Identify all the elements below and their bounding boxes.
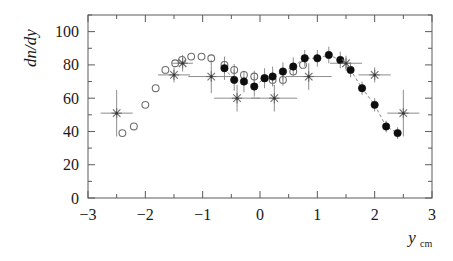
filled-circle-marker	[301, 55, 308, 62]
x-tick-label: −1	[194, 206, 211, 223]
star-core	[210, 75, 213, 78]
x-tick-label: 3	[428, 206, 436, 223]
star-marker	[232, 93, 242, 103]
x-tick-label: 2	[371, 206, 379, 223]
x-axis-label-main: y	[406, 228, 416, 247]
x-tick-label: 0	[256, 206, 264, 223]
star-marker	[398, 108, 408, 118]
y-axis-label-group: dn/dy	[21, 29, 40, 67]
filled-circle-marker	[261, 75, 268, 82]
x-tick-label: 1	[313, 206, 321, 223]
star-marker	[177, 58, 187, 68]
star-core	[181, 62, 184, 65]
star-marker	[269, 93, 279, 103]
filled-circle-marker	[371, 101, 378, 108]
x-axis-label-subscript: cm	[420, 238, 432, 249]
star-marker	[341, 58, 351, 68]
y-tick-label: 40	[63, 123, 79, 140]
star-core	[115, 112, 118, 115]
star-core	[307, 75, 310, 78]
filled-circle-marker	[314, 55, 321, 62]
star-core	[236, 97, 239, 100]
filled-circle-marker	[358, 85, 365, 92]
star-core	[373, 73, 376, 76]
star-marker	[304, 71, 314, 81]
filled-circle-marker	[251, 83, 258, 90]
y-tick-label: 20	[63, 156, 79, 173]
filled-circle-marker	[347, 66, 354, 73]
x-tick-label: −3	[79, 206, 96, 223]
y-axis-label: dn/dy	[21, 29, 40, 67]
star-marker	[206, 71, 216, 81]
filled-circle-marker	[240, 78, 247, 85]
dndy-rapidity-scatter-plot: −3−2−10123 020406080100 dn/dy y cm	[0, 0, 453, 261]
filled-circle-marker	[269, 73, 276, 80]
filled-circle-marker	[394, 129, 401, 136]
filled-circle-marker	[231, 76, 238, 83]
filled-circle-marker	[382, 123, 389, 130]
star-core	[173, 73, 176, 76]
filled-circle-marker	[290, 63, 297, 70]
y-tick-label: 80	[63, 56, 79, 73]
star-core	[345, 62, 348, 65]
x-tick-label: −2	[137, 206, 154, 223]
star-marker	[169, 70, 179, 80]
figure-container: −3−2−10123 020406080100 dn/dy y cm	[0, 0, 453, 261]
star-core	[402, 112, 405, 115]
star-marker	[369, 70, 379, 80]
y-tick-label: 0	[71, 190, 79, 207]
y-tick-label: 60	[63, 90, 79, 107]
star-core	[273, 97, 276, 100]
star-marker	[111, 108, 121, 118]
filled-circle-marker	[221, 65, 228, 72]
y-tick-label: 100	[55, 23, 79, 40]
filled-circle-marker	[325, 51, 332, 58]
filled-circle-marker	[279, 68, 286, 75]
